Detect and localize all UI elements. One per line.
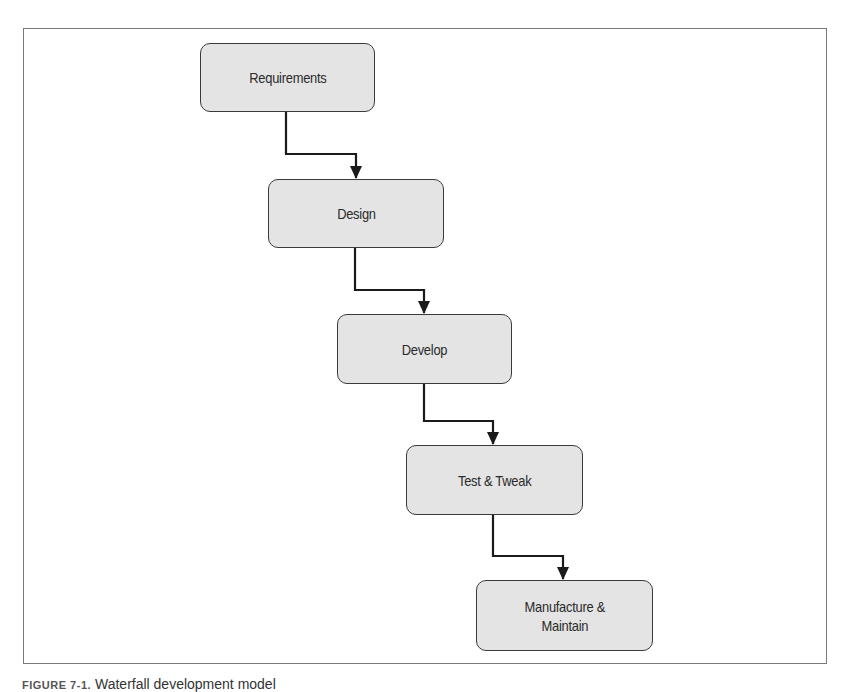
step-label: Develop	[402, 340, 448, 359]
arrow-develop-to-test	[424, 384, 493, 444]
step-label: Design	[337, 204, 376, 223]
caption-text: Waterfall development model	[95, 676, 276, 692]
arrow-requirements-to-design	[286, 112, 356, 178]
arrowhead-icon	[418, 301, 430, 314]
step-design: Design	[268, 179, 444, 248]
step-requirements: Requirements	[200, 43, 375, 112]
figure-label: FIGURE 7-1.	[22, 679, 91, 691]
step-label: Test & Tweak	[458, 471, 531, 490]
figure-caption: FIGURE 7-1. Waterfall development model	[22, 676, 276, 692]
step-label: Manufacture & Maintain	[524, 597, 605, 635]
step-label: Requirements	[249, 68, 326, 87]
arrowhead-icon	[487, 432, 499, 445]
step-develop: Develop	[337, 314, 512, 384]
arrowhead-icon	[350, 166, 362, 179]
arrow-design-to-develop	[355, 248, 424, 313]
step-test-and-tweak: Test & Tweak	[406, 445, 583, 515]
arrow-test-to-manufacture	[493, 515, 563, 579]
arrowhead-icon	[557, 567, 569, 580]
step-manufacture-and-maintain: Manufacture & Maintain	[476, 580, 653, 651]
